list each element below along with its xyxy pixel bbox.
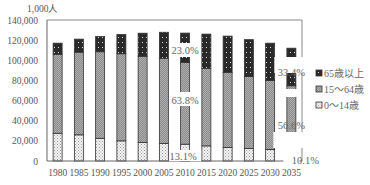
y-tick-label: 0: [33, 157, 38, 167]
legend: 65歳以上15～64歳0～14歳: [316, 68, 364, 111]
annotation-2010-pct: 13.1%: [170, 151, 197, 162]
x-tick-label: 2005: [154, 168, 173, 178]
bar-1990: [96, 37, 105, 161]
legend-swatch: [316, 70, 322, 76]
bar-segment: [223, 72, 232, 147]
bar-2000: [138, 33, 147, 161]
unit-label-text: 1,000人: [27, 4, 58, 14]
x-tick-label: 2025: [239, 168, 258, 178]
bar-segment: [266, 43, 275, 80]
bar-1980: [53, 43, 62, 161]
bar-segment: [53, 54, 62, 133]
annotation-2035-pct: 33.4%: [278, 67, 305, 78]
stacked-bar-chart: 1,000人 020,00040,00060,00080,000100,0001…: [0, 0, 370, 185]
bar-segment: [117, 141, 126, 161]
bar-segment: [96, 138, 105, 161]
annotation-2010-pct: 63.8%: [172, 95, 199, 106]
legend-label: 15～64歳: [324, 84, 364, 95]
bar-segment: [244, 148, 253, 161]
annotation-2035-pct: 56.6%: [278, 120, 305, 131]
bar-segment: [202, 146, 211, 161]
bar-segment: [74, 39, 83, 52]
legend-label: 65歳以上: [324, 68, 364, 79]
bar-segment: [266, 80, 275, 149]
x-tick-label: 2015: [197, 168, 216, 178]
x-axis: 1980198519901995200020052010201520202025…: [47, 161, 302, 178]
bar-1985: [74, 39, 83, 161]
bar-segment: [53, 43, 62, 54]
legend-swatch: [316, 102, 322, 108]
bar-segment: [74, 135, 83, 161]
bar-segment: [138, 142, 147, 161]
x-tick-label: 1995: [112, 168, 131, 178]
bar-segment: [202, 34, 211, 68]
y-tick-label: 120,000: [7, 36, 38, 46]
x-tick-label: 2030: [261, 168, 280, 178]
x-tick-label: 1985: [69, 168, 88, 178]
x-tick-label: 2000: [133, 168, 152, 178]
unit-label: 1,000人: [27, 4, 58, 14]
bar-2020: [223, 36, 232, 161]
bar-segment: [117, 35, 126, 54]
bar-segment: [138, 56, 147, 142]
bar-segment: [159, 143, 168, 161]
y-axis: 020,00040,00060,00080,000100,000120,0001…: [7, 16, 47, 167]
bar-segment: [74, 52, 83, 135]
y-tick-label: 100,000: [7, 56, 38, 66]
y-tick-label: 60,000: [12, 96, 38, 106]
bar-2030: [266, 43, 275, 161]
bar-segment: [244, 76, 253, 148]
bar-segment: [266, 149, 275, 161]
bar-segment: [223, 147, 232, 161]
bar-segment: [223, 36, 232, 72]
annotation-2035-pct: 10.1%: [292, 155, 319, 166]
y-tick-label: 40,000: [12, 116, 38, 126]
bar-2015: [202, 34, 211, 161]
y-tick-label: 140,000: [7, 16, 38, 26]
x-tick-label: 1980: [48, 168, 67, 178]
x-tick-label: 2020: [218, 168, 237, 178]
bar-segment: [159, 32, 168, 58]
bar-segment: [53, 133, 62, 161]
bar-segment: [96, 37, 105, 52]
bar-segment: [117, 54, 126, 141]
legend-swatch: [316, 86, 322, 92]
bar-segment: [202, 68, 211, 146]
annotation-2010-pct: 23.0%: [172, 45, 199, 56]
bar-segment: [244, 40, 253, 77]
x-tick-label: 2010: [176, 168, 195, 178]
bar-2005: [159, 32, 168, 161]
bar-2025: [244, 40, 253, 161]
bar-1995: [117, 35, 126, 161]
bar-segment: [96, 52, 105, 139]
plot-frame: [47, 20, 302, 161]
bar-segment: [159, 58, 168, 143]
x-tick-label: 2035: [282, 168, 301, 178]
y-tick-label: 20,000: [12, 136, 38, 146]
y-tick-label: 80,000: [12, 76, 38, 86]
bar-segment: [138, 33, 147, 56]
x-tick-label: 1990: [91, 168, 110, 178]
legend-label: 0～14歳: [324, 100, 359, 111]
